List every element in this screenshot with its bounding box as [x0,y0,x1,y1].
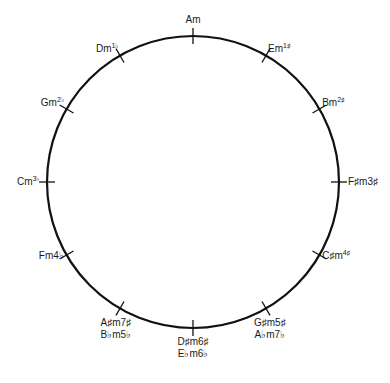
enharmonic-key-name: A♭m [255,329,275,340]
key-name: Fm [39,250,53,261]
key-name: Dm [96,43,112,54]
key-signature: 4♭ [53,250,64,261]
key-tick [262,302,270,316]
key-signature: 4♯ [343,249,350,256]
key-signature: 5♯ [275,317,286,328]
key-signature: 2♯ [337,96,344,103]
key-label-c-sharp-minor: C♯m4♯ [322,250,350,262]
key-name: Cm [17,176,33,187]
key-name: A♯m [101,317,121,328]
key-label-c-minor: Cm3♭ [17,176,39,188]
circle-of-fifths-diagram [0,0,390,383]
key-label-e-minor: Em1♯ [268,43,290,55]
enharmonic-key-name: E♭m [178,348,198,359]
key-label-g-minor: Gm2♭ [41,97,64,109]
key-label-g-sharp-minor: G♯m5♯ A♭m7♭ [254,317,286,341]
key-signature: 3♭ [33,175,40,182]
key-signature: 1♭ [112,42,119,49]
enharmonic-key-signature: 5♭ [121,329,132,340]
key-name: Gm [41,97,57,108]
key-signature: 1♯ [283,42,290,49]
enharmonic-key-signature: 7♭ [275,329,286,340]
key-tick-marks [39,28,347,336]
key-name: D♯m [178,336,199,347]
key-label-f-minor: Fm4♭ [39,250,64,262]
key-label-a-sharp-minor: A♯m7♯ B♭m5♭ [101,317,132,341]
enharmonic-key-name: B♭m [101,329,121,340]
key-name: Bm [322,97,337,108]
key-circle [47,36,339,328]
key-tick [116,302,124,316]
key-signature: 7♯ [121,317,132,328]
key-signature: 2♭ [57,96,64,103]
key-name: F♯m [348,176,367,187]
enharmonic-key-signature: 6♭ [198,348,209,359]
key-signature: 3♯ [367,176,378,187]
key-name: C♯m [322,250,343,261]
key-label-f-sharp-minor: F♯m3♯ [348,176,378,188]
key-name: G♯m [254,317,275,328]
key-name: Am [186,14,201,25]
key-label-d-minor: Dm1♭ [96,43,118,55]
key-label-a-minor: Am [186,14,201,26]
key-label-b-minor: Bm2♯ [322,97,344,109]
key-signature: 6♯ [198,336,209,347]
key-name: Em [268,43,283,54]
key-label-d-sharp-minor: D♯m6♯ E♭m6♭ [178,336,209,360]
